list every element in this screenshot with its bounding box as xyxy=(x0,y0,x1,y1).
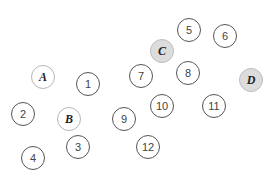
node-d: D xyxy=(239,68,263,92)
node-label: 3 xyxy=(75,141,81,153)
node-7: 7 xyxy=(129,64,153,88)
node-label: C xyxy=(158,44,166,59)
node-b: B xyxy=(57,107,81,131)
node-6: 6 xyxy=(213,24,237,48)
node-c: C xyxy=(150,39,174,63)
node-11: 11 xyxy=(202,94,226,118)
diagram-canvas: ABCD123456789101112 xyxy=(0,0,276,183)
node-label: 7 xyxy=(138,70,144,82)
node-4: 4 xyxy=(21,146,45,170)
node-label: 5 xyxy=(186,24,192,36)
node-8: 8 xyxy=(176,61,200,85)
node-label: A xyxy=(39,70,47,85)
node-12: 12 xyxy=(136,135,160,159)
node-label: 10 xyxy=(156,100,168,112)
node-10: 10 xyxy=(150,94,174,118)
node-1: 1 xyxy=(76,72,100,96)
node-a: A xyxy=(31,65,55,89)
node-label: 8 xyxy=(185,67,191,79)
node-label: 2 xyxy=(20,108,26,120)
node-label: 12 xyxy=(142,141,154,153)
node-2: 2 xyxy=(11,102,35,126)
node-label: 9 xyxy=(121,113,127,125)
node-label: 11 xyxy=(208,100,219,112)
node-label: 4 xyxy=(30,152,36,164)
node-label: D xyxy=(247,73,256,88)
node-9: 9 xyxy=(112,107,136,131)
node-label: 1 xyxy=(85,78,91,90)
node-label: B xyxy=(65,112,73,127)
node-5: 5 xyxy=(177,18,201,42)
node-label: 6 xyxy=(222,30,228,42)
node-3: 3 xyxy=(66,135,90,159)
